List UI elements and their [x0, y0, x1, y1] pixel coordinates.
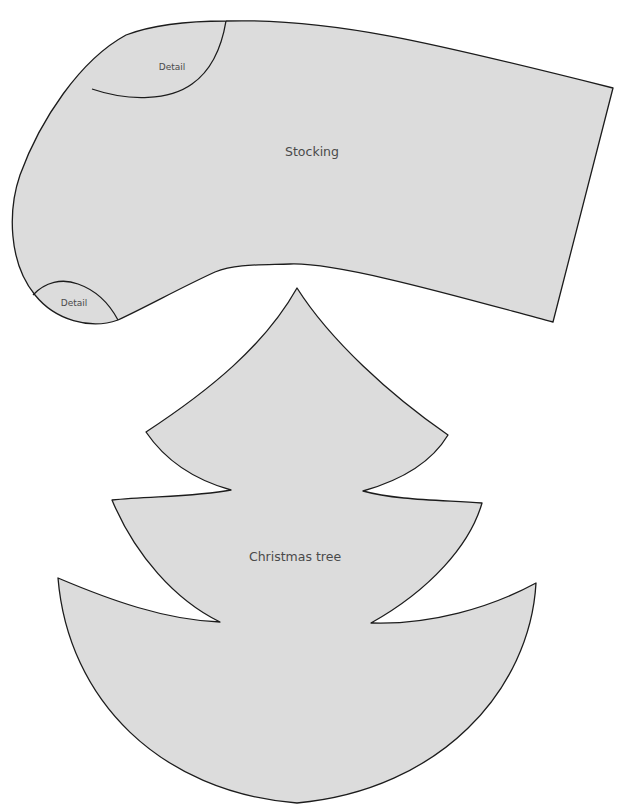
christmas-tree-outline [58, 288, 536, 803]
stocking-toe-detail-label: Detail [61, 298, 88, 308]
stocking-cuff-detail-label: Detail [159, 62, 186, 72]
christmas-tree-label: Christmas tree [249, 549, 341, 564]
stocking-outline [12, 21, 613, 324]
stocking-piece: Detail Detail Stocking [12, 21, 613, 324]
pattern-sheet: Detail Detail Stocking Christmas tree [0, 0, 623, 810]
stocking-label: Stocking [285, 144, 339, 159]
christmas-tree-piece: Christmas tree [58, 288, 536, 803]
